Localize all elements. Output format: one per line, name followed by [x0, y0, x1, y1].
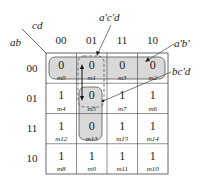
cell-m3: 0m3 [107, 53, 138, 83]
cell-m11: 1m11 [107, 144, 138, 174]
col-label-10: 10 [138, 34, 168, 46]
cell-m8: 1m8 [46, 144, 77, 174]
row-label-11: 11 [22, 122, 42, 134]
col-label-01: 01 [77, 34, 107, 46]
cell-m13: 0m13 [77, 114, 108, 144]
cell-m2: 0m2 [138, 53, 169, 83]
row-label-01: 01 [22, 92, 42, 104]
cell-m6: 1m6 [138, 83, 169, 113]
cell-m7: 1m7 [107, 83, 138, 113]
cell-m9: 1m9 [77, 144, 108, 174]
col-label-11: 11 [107, 34, 137, 46]
cell-m12: 1m12 [46, 114, 77, 144]
row-label-00: 00 [22, 62, 42, 74]
row-variable-label: ab [10, 36, 21, 48]
cell-m10: 1m10 [138, 144, 169, 174]
annotation-b-c-prime-d: bc'd [172, 65, 190, 77]
col-variable-label: cd [32, 19, 42, 31]
row-label-10: 10 [22, 152, 42, 164]
cell-m15: 1m15 [107, 114, 138, 144]
cell-m4: 1m4 [46, 83, 77, 113]
cell-m1: 0m1 [77, 53, 108, 83]
cell-m14: 1m14 [138, 114, 169, 144]
col-label-00: 00 [46, 34, 76, 46]
annotation-a-prime-b-prime: a'b' [174, 37, 190, 49]
annotation-a-prime-c-prime-d: a'c'd [99, 11, 120, 23]
cell-m0: 0m0 [46, 53, 77, 83]
kmap-grid: 0m0 0m1 0m3 0m2 1m4 0m5 1m7 1m6 1m12 0m1… [46, 53, 168, 174]
cell-m5: 0m5 [77, 83, 108, 113]
corner-diagonal [22, 29, 46, 53]
